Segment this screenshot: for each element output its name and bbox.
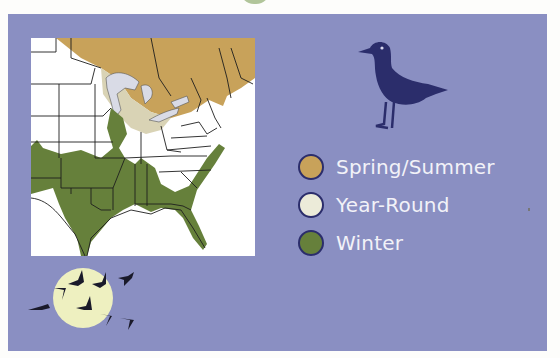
region-winter [31, 108, 225, 256]
legend-item-winter: Winter [298, 224, 495, 262]
range-map-graphic [31, 38, 255, 256]
legend: Spring/Summer Year-Round Winter [298, 148, 495, 262]
standing-bird-icon [356, 40, 452, 132]
legend-label: Spring/Summer [336, 155, 495, 179]
decorative-arc [240, 0, 270, 4]
range-map [31, 38, 255, 256]
region-spring-summer [56, 38, 255, 118]
legend-item-spring-summer: Spring/Summer [298, 148, 495, 186]
year-round-swatch [298, 192, 324, 218]
legend-item-year-round: Year-Round [298, 186, 495, 224]
legend-label: Winter [336, 231, 403, 255]
moon-with-geese [20, 266, 160, 346]
winter-swatch [298, 230, 324, 256]
stray-mark [528, 208, 530, 211]
spring-summer-swatch [298, 154, 324, 180]
legend-label: Year-Round [336, 193, 450, 217]
range-map-panel: Spring/Summer Year-Round Winter [8, 14, 547, 351]
